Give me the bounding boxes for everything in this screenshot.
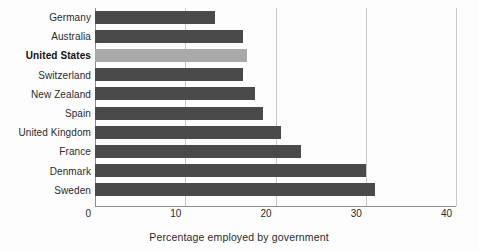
bar-australia <box>95 30 243 43</box>
category-label-united-states: United States <box>26 46 91 65</box>
bar-row <box>95 66 456 85</box>
category-label-germany: Germany <box>49 8 91 27</box>
plot-area <box>95 8 456 206</box>
bar-row <box>95 27 456 46</box>
category-label-denmark: Denmark <box>50 162 91 181</box>
bar-row <box>95 8 456 27</box>
category-label-new-zealand: New Zealand <box>31 85 91 104</box>
x-tick-label-20: 20 <box>260 208 275 219</box>
x-tick-label-30: 30 <box>351 208 366 219</box>
bar-row <box>95 85 456 104</box>
bar-new-zealand <box>95 87 255 100</box>
bar-row <box>95 46 456 65</box>
x-tick-label-0: 0 <box>85 208 95 219</box>
bar-united-kingdom <box>95 126 281 139</box>
bar-row <box>95 123 456 142</box>
bar-sweden <box>95 183 375 196</box>
gridline-40 <box>456 8 457 206</box>
bar-row <box>95 142 456 161</box>
bar-switzerland <box>95 68 243 81</box>
category-label-sweden: Sweden <box>54 181 91 200</box>
bar-row <box>95 162 456 181</box>
x-tick-label-10: 10 <box>170 208 185 219</box>
x-axis-title: Percentage employed by government <box>0 231 478 243</box>
x-axis-line <box>95 206 456 207</box>
bar-france <box>95 145 301 158</box>
bar-spain <box>95 107 263 120</box>
category-axis-labels: GermanyAustraliaUnited StatesSwitzerland… <box>0 8 91 206</box>
bar-germany <box>95 11 215 24</box>
category-label-australia: Australia <box>51 27 91 46</box>
bar-chart: GermanyAustraliaUnited StatesSwitzerland… <box>0 0 478 251</box>
category-label-switzerland: Switzerland <box>38 66 91 85</box>
category-label-spain: Spain <box>65 104 91 123</box>
bar-row <box>95 181 456 200</box>
bar-united-states <box>95 49 247 62</box>
category-label-france: France <box>59 142 91 161</box>
bar-denmark <box>95 164 366 177</box>
x-tick-label-40: 40 <box>441 208 456 219</box>
category-label-united-kingdom: United Kingdom <box>18 123 91 142</box>
bar-rows <box>95 8 456 206</box>
bar-row <box>95 104 456 123</box>
